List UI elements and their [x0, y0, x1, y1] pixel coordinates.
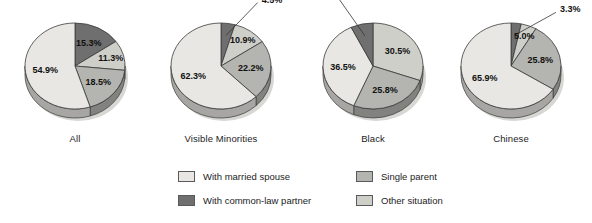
slice-percent-label: 25.8% — [372, 85, 398, 95]
slice-percent-label: 36.5% — [330, 62, 356, 72]
legend-label: Other situation — [381, 195, 443, 206]
slice-percent-label: 5.0% — [514, 31, 535, 41]
pie-chart-caption: Chinese — [436, 133, 586, 144]
slice-percent-label: 22.2% — [238, 63, 264, 73]
legend-column-right: Single parentOther situation — [356, 166, 443, 214]
slice-percent-label: 54.9% — [33, 65, 59, 75]
pie-chart-caption: Black — [298, 133, 448, 144]
pie-charts-row: 15.3%11.3%18.5%54.9%All4.5%10.9%22.2%62.… — [0, 0, 592, 158]
legend-swatch-other-situation — [356, 195, 373, 206]
slice-percent-label: 4.5% — [262, 0, 283, 5]
slice-percent-label: 30.5% — [385, 46, 411, 56]
pie-svg: 3.3%5.0%25.8%65.9% — [436, 0, 586, 135]
slice-percent-label: 25.8% — [527, 55, 553, 65]
pie-chart-all: 15.3%11.3%18.5%54.9%All — [0, 0, 150, 158]
pie-svg: 30.5%25.8%36.5%7.2% — [298, 0, 448, 135]
legend-swatch-with-married-spouse — [178, 171, 195, 182]
legend-column-left: With married spouseWith common-law partn… — [178, 166, 311, 214]
pie-chart-visible-minorities: 4.5%10.9%22.2%62.3%Visible Minorities — [146, 0, 296, 158]
pie-chart-chinese: 3.3%5.0%25.8%65.9%Chinese — [436, 0, 586, 158]
chart-legend: With married spouseWith common-law partn… — [178, 166, 478, 214]
slice-percent-label: 10.9% — [230, 35, 256, 45]
slice-percent-label: 3.3% — [560, 4, 581, 14]
legend-swatch-single-parent — [356, 171, 373, 182]
slice-percent-label: 11.3% — [98, 53, 123, 63]
legend-item-other-situation[interactable]: Other situation — [356, 190, 443, 211]
pie-svg: 4.5%10.9%22.2%62.3% — [146, 0, 296, 135]
legend-item-with-common-law-partner[interactable]: With common-law partner — [178, 190, 311, 211]
slice-percent-label: 15.3% — [76, 38, 102, 48]
slice-percent-label: 65.9% — [472, 73, 498, 83]
slice-percent-label: 18.5% — [86, 77, 112, 87]
legend-label: With common-law partner — [203, 195, 311, 206]
legend-item-with-married-spouse[interactable]: With married spouse — [178, 166, 311, 187]
legend-label: With married spouse — [203, 171, 290, 182]
pie-chart-caption: All — [0, 133, 150, 144]
pie-chart-figure: 15.3%11.3%18.5%54.9%All4.5%10.9%22.2%62.… — [0, 0, 592, 223]
pie-svg: 15.3%11.3%18.5%54.9% — [0, 0, 150, 135]
pie-chart-black: 30.5%25.8%36.5%7.2%Black — [298, 0, 448, 158]
slice-percent-label: 62.3% — [180, 71, 206, 81]
legend-label: Single parent — [381, 171, 437, 182]
legend-item-single-parent[interactable]: Single parent — [356, 166, 443, 187]
pie-chart-caption: Visible Minorities — [146, 133, 296, 144]
legend-swatch-with-common-law-partner — [178, 195, 195, 206]
